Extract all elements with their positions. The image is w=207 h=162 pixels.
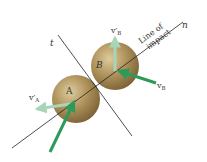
v-a-prime-label: v′A — [28, 93, 40, 103]
impact-diagram: t n Line of impact B A v′B vB v′A — [0, 0, 207, 162]
v-b-prime-label: v′B — [110, 26, 121, 36]
ball-b-label: B — [95, 60, 103, 70]
v-b-label: vB — [156, 81, 166, 91]
ball-a-label: A — [65, 86, 73, 96]
axis-t-label: t — [50, 38, 54, 48]
axis-n-label: n — [182, 20, 188, 30]
